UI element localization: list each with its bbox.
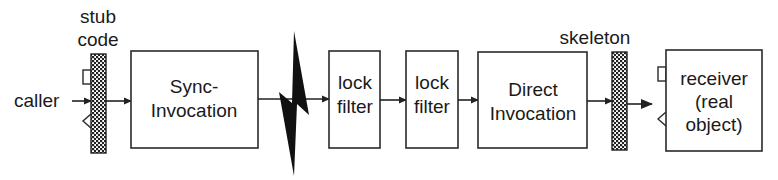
direct-invocation-box [478, 52, 587, 148]
caller-label: caller [14, 90, 60, 111]
stub-code-bar [91, 54, 106, 153]
lock1-label-line2: filter [337, 96, 374, 117]
skeleton-bar [612, 52, 627, 150]
stub-label-line2: code [77, 29, 118, 50]
stub-port-square-icon [83, 70, 91, 84]
sync-label-line1: Sync- [170, 76, 219, 97]
stub-port-triangle-icon [83, 114, 91, 128]
stub-label-line1: stub [80, 6, 116, 27]
direct-label-line2: Invocation [490, 103, 577, 124]
receiver-port-square-icon [658, 67, 666, 81]
lock2-label-line2: filter [414, 96, 451, 117]
receiver-label-line1: receiver [680, 68, 748, 89]
receiver-port-triangle-icon [658, 112, 666, 126]
direct-label-line1: Direct [508, 79, 558, 100]
lightning-bolt-icon [279, 31, 309, 176]
receiver-label-line2: (real [695, 91, 733, 112]
skeleton-label: skeleton [560, 27, 631, 48]
lock1-label-line1: lock [338, 72, 372, 93]
sync-label-line2: Invocation [151, 100, 238, 121]
invocation-diagram: caller stub code Sync- Invocation lock f… [0, 0, 778, 180]
receiver-label-line3: object) [685, 114, 742, 135]
lock2-label-line1: lock [415, 72, 449, 93]
